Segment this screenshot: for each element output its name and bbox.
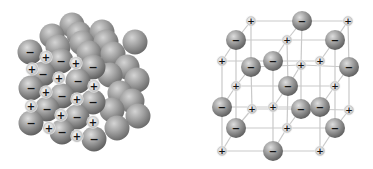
plus-sign-icon: + [57,110,65,121]
cation-sphere: + [25,62,38,75]
plus-sign-icon: + [42,87,50,98]
lattice-anion: − [212,97,232,117]
plus-sign-icon: + [28,64,36,75]
cation-sphere: + [87,79,100,92]
lattice-anion: − [226,30,246,50]
back-sphere [105,116,130,141]
lattice-cation: + [343,16,354,27]
plus-sign-icon: + [73,131,81,142]
minus-sign-icon: − [73,75,82,88]
space-filling-model: −−−−−−−−−−−−−++++++++++++ [18,13,151,152]
lattice-anion: − [339,57,359,77]
minus-sign-icon: − [345,62,353,73]
minus-sign-icon: − [218,102,226,113]
lattice-anion: − [278,76,298,96]
lattice-anion: − [241,57,261,77]
lattice-anion: − [226,118,246,138]
plus-sign-icon: + [55,73,63,84]
plus-sign-icon: + [42,52,50,63]
minus-sign-icon: − [297,104,305,115]
minus-sign-icon: − [42,103,51,116]
plus-sign-icon: + [247,16,255,26]
lattice-cation: + [344,105,355,116]
minus-sign-icon: − [57,126,66,139]
plus-sign-icon: + [45,123,53,134]
plus-sign-icon: + [90,81,98,92]
plus-sign-icon: + [344,16,352,26]
minus-sign-icon: − [247,62,255,73]
minus-sign-icon: − [284,81,292,92]
cation-sphere: + [70,129,83,142]
plus-sign-icon: + [269,102,277,112]
lattice-cation: + [315,146,326,157]
minus-sign-icon: − [88,96,97,109]
lattice-cation: + [217,146,228,157]
lattice-anion: − [263,51,283,71]
plus-sign-icon: + [27,101,35,112]
minus-sign-icon: − [72,111,81,124]
cation-sphere: + [52,71,65,84]
lattice-ions: +−+−+−+−+−+−+−+−+−+−+−+−+−+ [212,11,359,161]
minus-sign-icon: − [89,133,98,146]
lattice-anion: − [310,97,330,117]
lattice-cation: + [247,104,258,115]
plus-sign-icon: + [218,56,226,66]
lattice-cation: + [268,102,279,113]
cation-sphere: + [54,108,67,121]
lattice-cation: + [282,123,293,134]
minus-sign-icon: − [232,123,240,134]
ionic-lattice-figure: −−−−−−−−−−−−−++++++++++++ +−+−+−+−+−+−+−… [0,0,373,169]
minus-sign-icon: − [38,68,47,81]
cation-sphere: + [42,121,55,134]
cation-sphere: + [39,85,52,98]
anion-sphere: − [18,40,43,65]
cation-sphere: + [69,56,82,69]
minus-sign-icon: − [26,82,35,95]
lattice-cation: + [315,56,326,67]
lattice-cation: + [231,81,242,92]
cation-sphere: + [39,50,52,63]
cation-sphere: + [86,115,99,128]
figure-stage: −−−−−−−−−−−−−++++++++++++ +−+−+−+−+−+−+−… [0,0,373,169]
minus-sign-icon: − [316,102,324,113]
plus-sign-icon: + [283,35,291,45]
lattice-cation: + [330,81,341,92]
lattice-cation: + [296,60,307,71]
plus-sign-icon: + [283,123,291,133]
lattice-cation: + [246,16,257,27]
minus-sign-icon: − [331,35,339,46]
lattice-anion: − [292,11,312,31]
minus-sign-icon: − [25,46,34,59]
anion-sphere: − [82,127,107,152]
minus-sign-icon: − [88,61,97,74]
plus-sign-icon: + [345,105,353,115]
plus-sign-icon: + [218,146,226,156]
minus-sign-icon: − [298,16,306,27]
plus-sign-icon: + [248,104,256,114]
plus-sign-icon: + [73,94,81,105]
plus-sign-icon: + [89,117,97,128]
plus-sign-icon: + [232,81,240,91]
minus-sign-icon: − [269,56,277,67]
back-sphere [126,104,151,129]
lattice-cation: + [282,35,293,46]
minus-sign-icon: − [269,146,277,157]
minus-sign-icon: − [56,55,65,68]
minus-sign-icon: − [232,35,240,46]
plus-sign-icon: + [316,56,324,66]
lattice-anion: − [263,141,283,161]
lattice-anion: − [325,118,345,138]
minus-sign-icon: − [331,123,339,134]
cation-sphere: + [70,92,83,105]
plus-sign-icon: + [331,81,339,91]
lattice-cation: + [217,56,228,67]
plus-sign-icon: + [297,60,305,70]
minus-sign-icon: − [57,90,66,103]
plus-sign-icon: + [316,146,324,156]
ball-and-stick-model: +−+−+−+−+−+−+−+−+−+−+−+−+−+ [212,11,359,161]
anion-sphere: − [19,76,44,101]
plus-sign-icon: + [72,58,80,69]
cation-sphere: + [24,99,37,112]
anion-sphere: − [19,111,44,136]
back-sphere [123,30,148,55]
